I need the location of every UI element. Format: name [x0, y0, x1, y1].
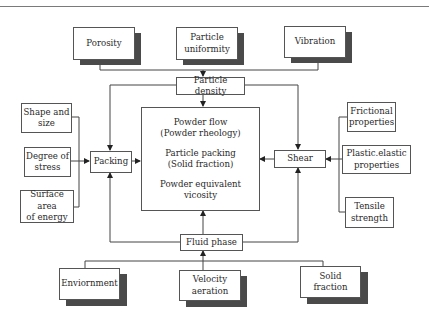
- surface-area-of-energy-label: Surface area of energy: [21, 189, 73, 224]
- packing-box: Packing: [90, 151, 132, 173]
- central-item-line: (Powder rheology): [160, 128, 240, 140]
- solid-fraction-label: Solid fraction: [313, 271, 347, 294]
- enviornment-label: Enviornment: [61, 278, 117, 290]
- central-item-powder-flow: Powder flow (Powder rheology): [160, 117, 240, 140]
- frictional-properties-label: Frictional properties: [349, 106, 394, 129]
- porosity-box: Porosity: [73, 27, 135, 60]
- velocity-aeration-box: Velocity aeration: [179, 270, 241, 301]
- packing-label: Packing: [94, 156, 128, 168]
- central-item-line: Powder equivalent: [160, 179, 241, 191]
- plastic-elastic-properties-label: Plastic.elastic properties: [346, 148, 406, 171]
- central-item-line: Powder flow: [160, 117, 240, 129]
- central-item-line: Particle packing: [165, 148, 236, 160]
- particle-uniformity-box: Particle uniformity: [176, 27, 238, 60]
- tensile-strength-label: Tensile strength: [351, 201, 388, 224]
- degree-of-stress-box: Degree of stress: [24, 147, 71, 177]
- central-item-powder-viscosity: Powder equivalent vicosity: [160, 179, 241, 202]
- vibration-box: Vibration: [284, 26, 346, 58]
- central-item-line: vicosity: [160, 190, 241, 202]
- fluid-phase-label: Fluid phase: [186, 237, 237, 249]
- shape-and-size-label: Shape and size: [23, 107, 69, 130]
- vibration-label: Vibration: [295, 36, 335, 48]
- central-item-line: (Solid fraction): [165, 159, 236, 171]
- frictional-properties-box: Frictional properties: [347, 102, 396, 132]
- fluid-phase-box: Fluid phase: [180, 234, 243, 251]
- plastic-elastic-properties-box: Plastic.elastic properties: [342, 145, 411, 174]
- central-item-particle-packing: Particle packing (Solid fraction): [165, 148, 236, 171]
- surface-area-of-energy-box: Surface area of energy: [20, 190, 74, 223]
- shear-label: Shear: [287, 153, 313, 165]
- enviornment-box: Enviornment: [59, 268, 120, 300]
- shape-and-size-box: Shape and size: [21, 103, 72, 133]
- porosity-label: Porosity: [86, 38, 121, 50]
- tensile-strength-box: Tensile strength: [345, 197, 394, 228]
- central-box: Powder flow (Powder rheology) Particle p…: [141, 107, 260, 211]
- particle-uniformity-label: Particle uniformity: [184, 32, 230, 55]
- velocity-aeration-label: Velocity aeration: [192, 274, 228, 297]
- particle-density-label: Particle density: [177, 75, 244, 98]
- solid-fraction-box: Solid fraction: [300, 266, 361, 298]
- particle-density-box: Particle density: [176, 77, 245, 95]
- degree-of-stress-label: Degree of stress: [26, 151, 69, 174]
- shear-box: Shear: [274, 150, 326, 168]
